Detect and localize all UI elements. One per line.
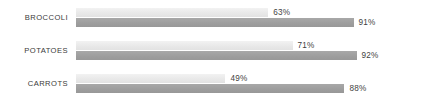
bar-value-light: 63% [273, 7, 290, 18]
bar-value-light: 71% [298, 40, 315, 51]
bar-light [76, 41, 293, 50]
category-label: POTATOES [0, 45, 68, 56]
horizontal-bar-chart: BROCCOLI 63% 91% POTATOES 71% 92% CARROT… [0, 0, 441, 108]
bar-dark [76, 51, 357, 60]
bar-group: POTATOES 71% 92% [0, 39, 441, 65]
bar-value-dark: 88% [349, 83, 366, 94]
bar-value-dark: 92% [362, 50, 379, 61]
category-label: CARROTS [0, 78, 68, 89]
bar-group: CARROTS 49% 88% [0, 72, 441, 98]
category-label: BROCCOLI [0, 12, 68, 23]
bar-light [76, 8, 268, 17]
bar-group: BROCCOLI 63% 91% [0, 6, 441, 32]
bar-light [76, 74, 225, 83]
bar-dark [76, 84, 344, 93]
bar-value-dark: 91% [359, 17, 376, 28]
bar-value-light: 49% [230, 73, 247, 84]
bar-dark [76, 18, 354, 27]
